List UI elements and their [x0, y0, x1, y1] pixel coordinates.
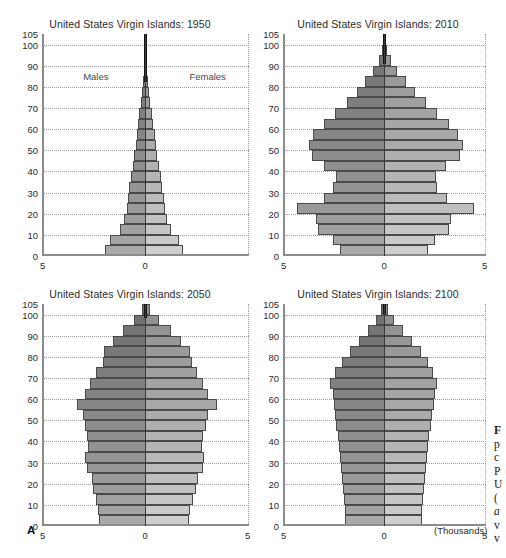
bar-male [87, 431, 146, 442]
x-axis-tick-label-center: 0 [143, 530, 148, 541]
y-axis-tick-label: 40 [14, 437, 38, 446]
bar-male [342, 473, 385, 484]
bar-female [385, 161, 447, 172]
x-axis-tick-label-left: 5 [40, 260, 45, 271]
panel-title: United States Virgin Islands: 2100 [263, 288, 493, 300]
bar-male [340, 452, 385, 463]
y-axis-tick-label: 105 [14, 30, 38, 39]
bar-female [385, 346, 422, 357]
bar-male [335, 367, 385, 378]
plot-area-2050: 0102030405060708090100105505 [42, 304, 249, 526]
bar-female [146, 182, 163, 193]
bar-male [127, 203, 146, 214]
bar-female [385, 494, 424, 505]
bar-male [334, 399, 385, 410]
bar-male [103, 357, 145, 368]
x-axis-tick-label-center: 0 [382, 260, 387, 271]
y-axis-tick-label: 60 [14, 395, 38, 404]
y-axis-tick-label: 10 [255, 500, 279, 509]
y-axis-tick-label: 100 [255, 310, 279, 319]
bar-male [359, 336, 384, 347]
x-axis-tick-label-left: 5 [281, 260, 286, 271]
bar-male [338, 431, 385, 442]
legend-label-males: Males [83, 71, 108, 82]
y-axis-line [42, 34, 44, 256]
center-zero-line [384, 34, 385, 256]
bar-male [318, 224, 385, 235]
y-axis-tick-label: 0 [255, 522, 279, 531]
y-axis-tick-label: 90 [255, 61, 279, 70]
bar-female [385, 214, 452, 225]
x-axis-tick-label-right: 5 [482, 260, 487, 271]
y-axis-tick-label: 70 [14, 374, 38, 383]
bar-female [146, 315, 159, 326]
bar-female [385, 336, 412, 347]
y-axis-tick-label: 60 [14, 125, 38, 134]
bar-male [316, 214, 384, 225]
bar-male [96, 367, 146, 378]
bar-male [90, 378, 146, 389]
bar-male [350, 346, 385, 357]
y-axis-tick-label: 50 [255, 416, 279, 425]
y-axis-tick-label: 30 [14, 188, 38, 197]
bar-female [146, 129, 155, 140]
bar-female [146, 420, 206, 431]
bar-female [385, 193, 448, 204]
bar-female [385, 389, 436, 400]
y-axis-tick-label: 0 [14, 252, 38, 261]
bar-male [341, 463, 385, 474]
bar-female [385, 224, 450, 235]
bar-female [385, 441, 429, 452]
plot-area-1950: 010203040506070809010010550MalesFemales [42, 34, 249, 256]
y-axis-tick-label: 30 [255, 458, 279, 467]
bar-female [385, 452, 428, 463]
bar-female [146, 505, 191, 516]
bar-male [133, 161, 146, 172]
y-axis-tick-label: 30 [255, 188, 279, 197]
bar-female [385, 484, 425, 495]
caption-line: U [494, 478, 506, 492]
bar-female [146, 441, 203, 452]
bar-male [110, 235, 145, 246]
bar-female [385, 505, 423, 516]
right-border-dotted [248, 304, 249, 526]
bar-female [146, 346, 191, 357]
caption-line: c [494, 451, 506, 465]
bar-female [385, 66, 398, 77]
bar-female [385, 473, 426, 484]
bar-female [385, 463, 427, 474]
y-axis-tick-label: 10 [255, 230, 279, 239]
bar-female [146, 108, 152, 119]
bar-female [146, 473, 199, 484]
y-axis-tick-label: 70 [14, 104, 38, 113]
y-axis-tick-label: 80 [255, 352, 279, 361]
y-axis-tick-label: 80 [255, 82, 279, 91]
bar-male [357, 87, 384, 98]
bar-female [146, 203, 165, 214]
bar-female [146, 235, 180, 246]
bar-male [342, 357, 385, 368]
bar-male [96, 494, 146, 505]
caption-line: v [494, 532, 506, 544]
y-axis-tick-label: 80 [14, 352, 38, 361]
y-axis-tick-label: 50 [14, 416, 38, 425]
bar-male [368, 325, 384, 336]
bar-female [146, 399, 217, 410]
bar-male [339, 441, 385, 452]
y-axis-tick-label: 90 [14, 331, 38, 340]
y-axis-tick-label: 50 [255, 146, 279, 155]
bar-female [146, 171, 161, 182]
bar-male [124, 214, 146, 225]
y-axis-tick-label: 10 [14, 500, 38, 509]
y-axis-tick-label: 60 [255, 125, 279, 134]
right-border-dotted [485, 304, 486, 526]
bar-female [146, 463, 204, 474]
bar-female [146, 494, 194, 505]
bar-female [146, 431, 204, 442]
bar-female [385, 367, 434, 378]
bar-male [313, 129, 384, 140]
bar-female [385, 420, 432, 431]
x-axis-tick-label-center: 0 [382, 530, 387, 541]
x-axis-units-label: (Thousands) [434, 525, 487, 536]
bar-female [385, 203, 474, 214]
